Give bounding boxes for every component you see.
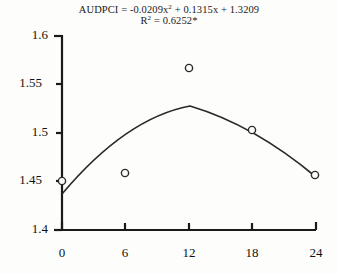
data-point [248,126,255,133]
y-tick-label: 1.5 [2,124,48,140]
data-point [311,171,318,178]
data-point [121,169,128,176]
chart-figure: AUDPCI = -0.0209x2 + 0.1315x + 1.3209 R2… [0,0,338,274]
x-axis-ticks [62,222,316,230]
data-point [185,64,192,71]
plot-area [0,0,338,274]
x-tick-label: 6 [110,245,140,261]
y-tick-label: 1.55 [0,75,42,91]
data-point [58,177,65,184]
x-tick-label: 12 [174,245,204,261]
regression-curve [62,106,316,194]
y-tick-label: 1.6 [2,27,48,43]
data-point-markers [58,64,318,184]
x-tick-label: 18 [237,245,267,261]
x-tick-label: 24 [301,245,331,261]
x-tick-label: 0 [47,245,77,261]
y-tick-label: 1.45 [0,172,42,188]
y-axis-ticks [54,36,62,230]
y-tick-label: 1.4 [2,221,48,237]
